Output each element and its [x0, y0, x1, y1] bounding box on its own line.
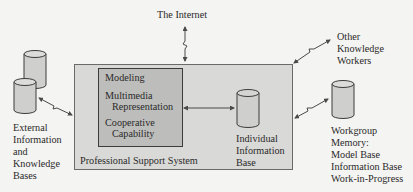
internet-link-arrow	[183, 27, 187, 61]
external-bases-line: Information	[13, 134, 62, 146]
capability-label: Capability	[112, 128, 154, 140]
workgroup-memory-line: Information Base	[331, 161, 403, 173]
representation-label: Representation	[112, 101, 173, 113]
other-workers-link-arrow	[294, 40, 330, 63]
workgroup-memory-line: Model Base	[331, 149, 403, 161]
database-icon	[237, 90, 259, 128]
other-workers-line: Other	[337, 31, 384, 43]
workgroup-memory-link-arrow	[295, 99, 328, 118]
database-icon	[332, 81, 354, 119]
database-icon	[14, 79, 36, 114]
modeling-label: Modeling	[105, 72, 145, 84]
external-bases-line: Knowledge	[13, 158, 62, 170]
internet-label: The Internet	[157, 9, 207, 21]
workgroup-memory-line: Work-in-Progress	[331, 173, 403, 185]
other-workers-line: Knowledge	[337, 43, 384, 55]
individual-base-line: Information	[236, 145, 285, 157]
external-bases-line: Bases	[13, 170, 62, 182]
professional-support-system-label: Professional Support System	[80, 155, 198, 167]
workgroup-memory-line: Memory:	[331, 137, 403, 149]
other-workers-line: Workers	[337, 55, 384, 67]
individual-base-line: Individual	[236, 133, 285, 145]
external-bases-line: External	[13, 122, 62, 134]
workgroup-memory-line: Workgroup	[331, 125, 403, 137]
workgroup-memory-label: Workgroup Memory: Model Base Information…	[331, 125, 403, 185]
other-workers-label: Other Knowledge Workers	[337, 31, 384, 67]
external-bases-label: External Information and Knowledge Bases	[13, 122, 62, 182]
external-bases-line: and	[13, 146, 62, 158]
external-bases-link-arrow	[39, 98, 72, 115]
individual-base-line: Base	[236, 157, 285, 169]
individual-base-label: Individual Information Base	[236, 133, 285, 169]
